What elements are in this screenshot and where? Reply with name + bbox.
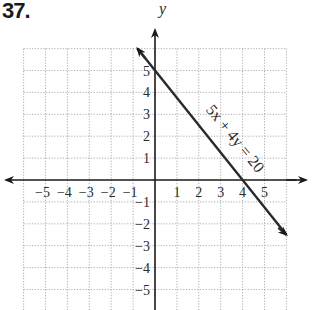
coordinate-plane: −5−4−3−2−11234554321−1−2−3−4−5 y 5x + 4y… (0, 0, 314, 310)
svg-text:5: 5 (143, 64, 150, 79)
svg-text:−2: −2 (135, 217, 150, 232)
svg-text:−5: −5 (135, 283, 150, 298)
svg-text:−4: −4 (57, 185, 72, 200)
svg-text:5: 5 (261, 185, 268, 200)
svg-text:−3: −3 (135, 239, 150, 254)
svg-text:−5: −5 (35, 185, 50, 200)
y-axis-label: y (157, 0, 167, 18)
svg-text:1: 1 (173, 185, 180, 200)
line-series (137, 49, 286, 235)
svg-text:2: 2 (195, 185, 202, 200)
svg-text:3: 3 (217, 185, 224, 200)
svg-text:1: 1 (143, 151, 150, 166)
svg-text:2: 2 (143, 129, 150, 144)
svg-text:−2: −2 (101, 185, 116, 200)
svg-text:−4: −4 (135, 261, 150, 276)
svg-text:−1: −1 (135, 195, 150, 210)
equation-label: 5x + 4y = 20 (202, 101, 268, 176)
svg-text:−3: −3 (79, 185, 94, 200)
svg-text:4: 4 (143, 85, 150, 100)
svg-text:4: 4 (239, 185, 246, 200)
svg-text:3: 3 (143, 107, 150, 122)
